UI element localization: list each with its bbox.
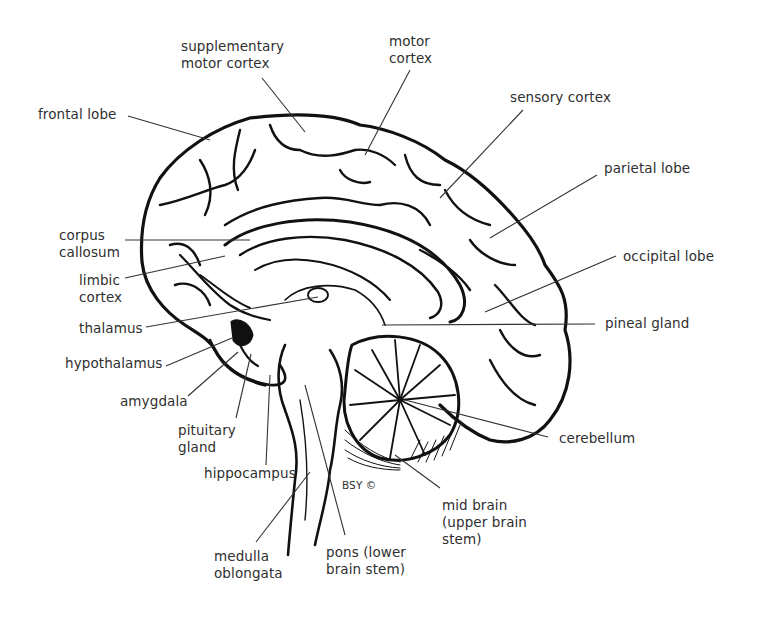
- brainstem-outline: [279, 345, 297, 555]
- label-frontal-lobe: frontal lobe: [38, 106, 117, 123]
- label-occipital-lobe: occipital lobe: [623, 248, 714, 265]
- brain-illustration: [0, 0, 762, 625]
- label-parietal-lobe: parietal lobe: [604, 160, 690, 177]
- label-supplementary-motor-cortex: supplementary motor cortex: [181, 38, 284, 72]
- cerebellum-folia: [350, 340, 455, 458]
- thalamus-shape: [308, 288, 328, 302]
- label-pituitary-gland: pituitary gland: [178, 422, 236, 456]
- label-mid-brain: mid brain (upper brain stem): [442, 497, 527, 548]
- label-sensory-cortex: sensory cortex: [510, 89, 611, 106]
- label-thalamus: thalamus: [79, 320, 143, 337]
- label-amygdala: amygdala: [120, 393, 188, 410]
- label-hypothalamus: hypothalamus: [65, 355, 162, 372]
- label-medulla-oblongata: medulla oblongata: [214, 548, 283, 582]
- brain-diagram: supplementary motor cortex motor cortex …: [0, 0, 762, 625]
- label-cerebellum: cerebellum: [559, 430, 635, 447]
- sulci: [160, 125, 540, 405]
- label-limbic-cortex: limbic cortex: [79, 272, 122, 306]
- label-hippocampus: hippocampus: [204, 465, 296, 482]
- label-motor-cortex: motor cortex: [389, 33, 432, 67]
- label-corpus-callosum: corpus callosum: [59, 227, 120, 261]
- credit-mark: BSY ©: [342, 479, 376, 492]
- label-pons: pons (lower brain stem): [326, 544, 406, 578]
- label-pineal-gland: pineal gland: [605, 315, 689, 332]
